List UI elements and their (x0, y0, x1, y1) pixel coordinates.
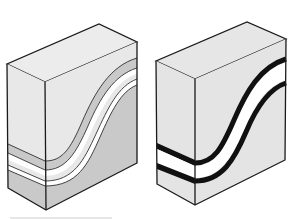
left-block (7, 24, 137, 210)
right-block-side-face (156, 61, 195, 205)
right-block (156, 22, 286, 205)
diagram-canvas (0, 0, 293, 219)
